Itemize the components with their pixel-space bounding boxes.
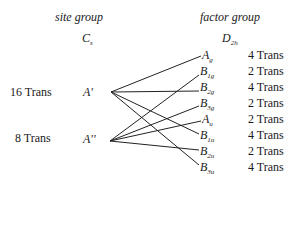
factor-species-label: B3g <box>200 96 214 112</box>
factor-species-count: 4 Trans <box>248 80 284 95</box>
factor-species-label: B3u <box>200 160 214 176</box>
factor-species-label: B2u <box>200 144 214 160</box>
factor-species-label: B1g <box>200 64 214 80</box>
factor-species-count: 2 Trans <box>248 64 284 79</box>
factor-species-count: 4 Trans <box>248 48 284 63</box>
factor-species-label: Ag <box>202 48 213 64</box>
factor-species-label: B1u <box>200 128 214 144</box>
factor-species-count: 4 Trans <box>248 160 284 175</box>
factor-species-count: 2 Trans <box>248 144 284 159</box>
factor-species-count: 4 Trans <box>248 128 284 143</box>
factor-species-count: 2 Trans <box>248 112 284 127</box>
factor-species-label: Au <box>202 112 213 128</box>
factor-species-label: B2g <box>200 80 214 96</box>
factor-species-count: 2 Trans <box>248 96 284 111</box>
